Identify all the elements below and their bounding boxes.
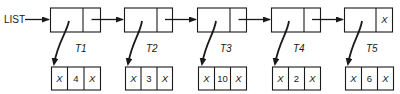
- leaf-5-left: X: [349, 73, 357, 84]
- leaf-5-value: 6: [367, 73, 372, 84]
- tree-label-t2: T2: [146, 43, 158, 54]
- leaf-node-1: X 4 X: [52, 67, 101, 90]
- tree-label-t1: T1: [75, 43, 87, 54]
- leaf-1-value: 4: [73, 73, 78, 84]
- leaf-4-left: X: [276, 73, 284, 84]
- leaf-5-right: X: [381, 73, 389, 84]
- list-node-5: X T5: [345, 8, 393, 64]
- tree-label-t5: T5: [366, 43, 378, 54]
- leaf-4-right: X: [308, 73, 316, 84]
- leaf-1-right: X: [88, 73, 96, 84]
- leaf-1-left: X: [55, 73, 63, 84]
- list-head-label: LIST: [4, 14, 25, 25]
- leaf-3-right: X: [234, 73, 242, 84]
- leaf-2-value: 3: [146, 73, 151, 84]
- leaf-node-2: X 3 X: [126, 67, 173, 90]
- leaf-3-left: X: [202, 73, 210, 84]
- list-node-3: T3: [198, 8, 271, 64]
- leaf-2-left: X: [129, 73, 137, 84]
- leaf-2-right: X: [161, 73, 169, 84]
- node-5-null-cell: X: [380, 14, 388, 25]
- leaf-node-5: X 6 X: [346, 67, 394, 90]
- leaf-node-3: X 10 X: [199, 67, 247, 90]
- list-node-1: T1: [51, 8, 124, 64]
- list-node-4: T4: [272, 8, 344, 64]
- linked-list-diagram: LIST T1 T2 T3 T4 X: [0, 0, 400, 94]
- leaf-3-value: 10: [217, 73, 228, 84]
- tree-label-t4: T4: [293, 43, 305, 54]
- tree-label-t3: T3: [220, 43, 232, 54]
- leaf-4-value: 2: [294, 73, 299, 84]
- leaf-node-4: X 2 X: [273, 67, 321, 90]
- list-node-2: T2: [125, 8, 197, 64]
